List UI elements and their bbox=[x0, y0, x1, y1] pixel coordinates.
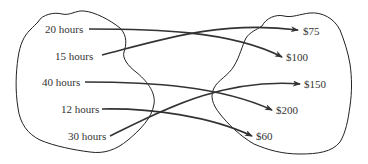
domain-item-15-hours: 15 hours bbox=[55, 50, 93, 62]
domain-item-12-hours: 12 hours bbox=[61, 103, 99, 115]
arrow-12-hours-to-60 bbox=[102, 109, 252, 136]
range-item-200: $200 bbox=[276, 104, 298, 116]
domain-item-20-hours: 20 hours bbox=[45, 23, 83, 35]
range-item-100: $100 bbox=[286, 51, 308, 63]
range-item-75: $75 bbox=[303, 25, 320, 37]
domain-item-30-hours: 30 hours bbox=[68, 130, 106, 142]
domain-item-40-hours: 40 hours bbox=[42, 76, 80, 88]
range-item-150: $150 bbox=[304, 78, 326, 90]
arrow-20-hours-to-100 bbox=[89, 29, 282, 57]
range-item-60: $60 bbox=[256, 130, 273, 142]
